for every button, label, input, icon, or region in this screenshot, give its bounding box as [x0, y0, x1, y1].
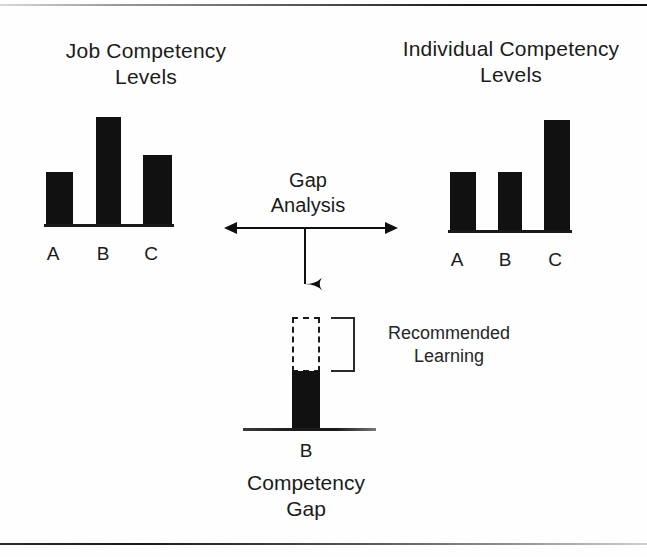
- bar-job-a: [46, 172, 73, 224]
- recommended-learning-bracket: [331, 317, 355, 372]
- job-axis-label-c: C: [138, 243, 164, 265]
- individual-axis-label-b: B: [492, 249, 518, 271]
- bar-individual-a: [450, 172, 476, 230]
- job-axis-label-a: A: [40, 243, 66, 265]
- individual-axis-label-a: A: [444, 249, 470, 271]
- recommended-learning-label: Recommended Learning: [364, 322, 534, 368]
- gap-chart-baseline: [243, 428, 376, 431]
- individual-axis-label-c: C: [542, 249, 568, 271]
- competency-gap-caption-line1: Competency: [226, 470, 386, 496]
- recommended-learning-label-line1: Recommended: [364, 322, 534, 345]
- competency-gap-caption: Competency Gap: [226, 470, 386, 522]
- gap-bar-recommended-learning-segment: [292, 317, 320, 372]
- job-competency-chart: A B C: [0, 0, 220, 280]
- bar-individual-b: [498, 172, 522, 230]
- job-chart-baseline: [44, 224, 174, 227]
- job-axis-label-b: B: [90, 243, 116, 265]
- bar-individual-c: [544, 120, 570, 230]
- gap-analysis-arrows: [210, 205, 410, 310]
- recommended-learning-label-line2: Learning: [364, 345, 534, 368]
- gap-bar-current-segment: [292, 371, 320, 429]
- bar-job-b: [96, 117, 121, 224]
- competency-gap-diagram: Job Competency Levels Individual Compete…: [0, 0, 647, 557]
- bottom-divider-rule: [0, 543, 647, 545]
- individual-competency-chart: A B C: [400, 0, 640, 290]
- competency-gap-caption-line2: Gap: [226, 496, 386, 522]
- gap-analysis-label-line1: Gap: [238, 168, 378, 193]
- gap-axis-label-b: B: [293, 440, 319, 462]
- bar-job-c: [143, 155, 172, 224]
- individual-chart-baseline: [448, 230, 572, 233]
